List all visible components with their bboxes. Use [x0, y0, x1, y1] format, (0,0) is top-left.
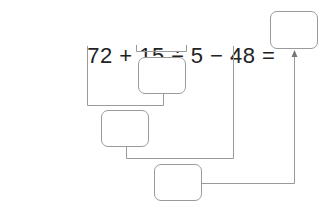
answer-box[interactable] [270, 11, 318, 49]
arrow-up-icon [292, 50, 298, 57]
step1-box[interactable] [138, 57, 186, 94]
bracket-division [137, 45, 187, 52]
line-to-answer [202, 56, 295, 184]
step2-box[interactable] [101, 110, 149, 147]
step3-box[interactable] [154, 164, 202, 201]
